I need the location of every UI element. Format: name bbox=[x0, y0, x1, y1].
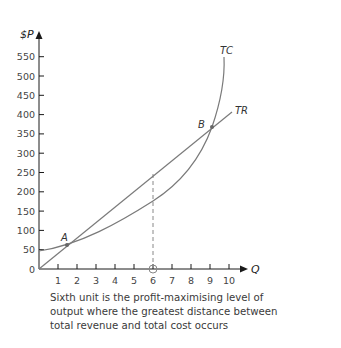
x-tick-labels: 1 2 3 4 5 6 7 8 9 10 bbox=[55, 275, 235, 286]
tc-label: TC bbox=[220, 45, 233, 56]
caption-line-3: total revenue and total cost occurs bbox=[50, 319, 250, 333]
svg-text:500: 500 bbox=[17, 71, 35, 82]
svg-text:550: 550 bbox=[17, 51, 35, 62]
svg-text:5: 5 bbox=[131, 275, 137, 286]
svg-text:250: 250 bbox=[17, 167, 35, 178]
x-axis-arrow-icon bbox=[240, 266, 248, 273]
caption-line-1: Sixth unit is the profit-maximising leve… bbox=[50, 291, 250, 305]
y-ticks bbox=[39, 57, 44, 250]
y-axis-title: $P bbox=[20, 28, 34, 41]
tr-label: TR bbox=[235, 105, 248, 116]
x-ticks bbox=[58, 264, 229, 269]
svg-text:10: 10 bbox=[223, 275, 235, 286]
x-axis-title: Q bbox=[251, 263, 260, 276]
svg-text:200: 200 bbox=[17, 186, 35, 197]
svg-text:9: 9 bbox=[207, 275, 213, 286]
chart-caption: Sixth unit is the profit-maximising leve… bbox=[50, 291, 250, 333]
y-axis-arrow-icon bbox=[36, 31, 43, 39]
point-a-label: A bbox=[60, 232, 68, 243]
svg-text:0: 0 bbox=[29, 264, 35, 275]
svg-text:100: 100 bbox=[17, 225, 35, 236]
caption-line-2: output where the greatest distance betwe… bbox=[50, 305, 250, 319]
svg-text:400: 400 bbox=[17, 109, 35, 120]
tc-curve bbox=[39, 57, 224, 251]
y-tick-labels: 0 50 100 150 200 250 300 350 400 450 500… bbox=[17, 51, 35, 274]
svg-text:8: 8 bbox=[188, 275, 194, 286]
svg-text:450: 450 bbox=[17, 90, 35, 101]
svg-text:7: 7 bbox=[169, 275, 175, 286]
point-b-marker bbox=[210, 125, 214, 129]
svg-text:300: 300 bbox=[17, 148, 35, 159]
svg-text:150: 150 bbox=[17, 206, 35, 217]
svg-text:1: 1 bbox=[55, 275, 61, 286]
point-a-marker bbox=[65, 243, 69, 247]
svg-text:2: 2 bbox=[74, 275, 80, 286]
svg-text:50: 50 bbox=[23, 244, 35, 255]
point-b-label: B bbox=[198, 119, 205, 130]
svg-text:6: 6 bbox=[150, 275, 156, 286]
svg-text:3: 3 bbox=[93, 275, 99, 286]
svg-text:350: 350 bbox=[17, 128, 35, 139]
svg-text:4: 4 bbox=[112, 275, 118, 286]
